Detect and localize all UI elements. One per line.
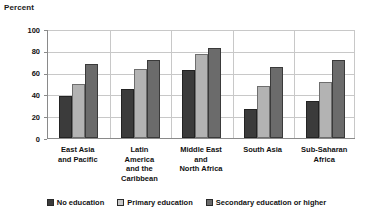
legend-label: No education [57, 198, 105, 207]
legend-swatch-icon [117, 199, 124, 206]
bar-group-bars [171, 30, 233, 138]
bar-group-bars [294, 30, 356, 138]
x-axis-label: East Asiaand Pacific [47, 145, 109, 164]
bar[interactable] [134, 69, 147, 138]
y-axis-tick-60: 60 [0, 69, 40, 78]
x-axis-label: Middle EastandNorth Africa [170, 145, 232, 174]
bar[interactable] [332, 60, 345, 138]
bar[interactable] [182, 70, 195, 138]
legend-item[interactable]: No education [47, 198, 105, 207]
x-axis-label: LatinAmericaand theCaribbean [109, 145, 171, 183]
plot-area [47, 30, 355, 139]
bar-group-bars [110, 30, 172, 138]
bar-group [233, 30, 295, 138]
bar-group [171, 30, 233, 138]
legend-label: Secondary education or higher [216, 198, 326, 207]
legend-item[interactable]: Secondary education or higher [206, 198, 326, 207]
x-axis-label: South Asia [232, 145, 294, 155]
grouped-bar-chart: Percent 020406080100 East Asiaand Pacifi… [0, 0, 373, 218]
bar[interactable] [208, 48, 221, 138]
bar[interactable] [72, 84, 85, 139]
bar[interactable] [306, 101, 319, 138]
x-axis-label: Sub-SaharanAfrica [293, 145, 355, 164]
y-axis-tick-20: 20 [0, 113, 40, 122]
bar[interactable] [195, 54, 208, 138]
bar[interactable] [270, 67, 283, 138]
bar-group [110, 30, 172, 138]
bar-group-bars [48, 30, 110, 138]
y-axis-tick-100: 100 [0, 26, 40, 35]
bar[interactable] [257, 86, 270, 138]
y-axis-tick-40: 40 [0, 91, 40, 100]
bar[interactable] [147, 60, 160, 138]
y-axis-title: Percent [4, 3, 34, 12]
bar[interactable] [244, 109, 257, 138]
bar[interactable] [85, 64, 98, 138]
legend-swatch-icon [47, 199, 54, 206]
bar-group [294, 30, 356, 138]
bar-group-bars [233, 30, 295, 138]
legend-swatch-icon [206, 199, 213, 206]
y-axis-tick-80: 80 [0, 47, 40, 56]
legend-label: Primary education [127, 198, 192, 207]
bar-group [48, 30, 110, 138]
y-axis-tick-0: 0 [0, 135, 40, 144]
chart-legend: No educationPrimary educationSecondary e… [0, 198, 373, 207]
legend-item[interactable]: Primary education [117, 198, 192, 207]
y-axis-tickmark-0 [44, 139, 47, 140]
bar[interactable] [59, 96, 72, 139]
bar[interactable] [121, 89, 134, 138]
bar[interactable] [319, 82, 332, 138]
